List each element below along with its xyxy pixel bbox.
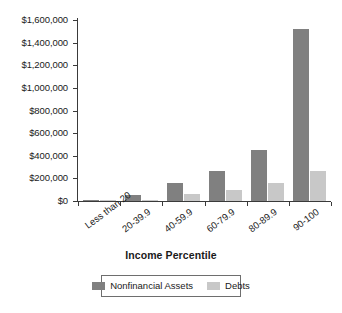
y-axis-tick-labels: $1,600,000$1,400,000$1,200,000$1,000,000… <box>0 14 72 202</box>
bar <box>268 183 284 201</box>
y-axis-tick-label: $800,000 <box>29 106 68 116</box>
bar <box>142 200 158 201</box>
legend-item: Debts <box>207 281 250 291</box>
x-axis-tick-mark <box>205 202 206 206</box>
bar-group <box>78 14 120 201</box>
x-axis-tick-mark <box>120 202 121 206</box>
bar <box>167 183 183 201</box>
y-axis-tick-label: $1,000,000 <box>21 83 68 93</box>
x-axis-title: Income Percentile <box>0 249 342 261</box>
bar-chart: $1,600,000$1,400,000$1,200,000$1,000,000… <box>0 0 342 313</box>
y-axis-tick-mark <box>73 133 77 134</box>
bar-group <box>205 14 247 201</box>
plot-area: $1,600,000$1,400,000$1,200,000$1,000,000… <box>0 0 342 215</box>
y-axis-tick-mark <box>73 65 77 66</box>
legend-label: Nonfinancial Assets <box>110 281 193 291</box>
bar-group <box>247 14 289 201</box>
y-axis-tick-mark <box>73 201 77 202</box>
y-axis-tick-mark <box>73 20 77 21</box>
y-axis-tick-label: $200,000 <box>29 174 68 184</box>
bar-group <box>289 14 331 201</box>
y-axis-tick-mark <box>73 156 77 157</box>
bar <box>251 150 267 201</box>
bar <box>226 190 242 201</box>
x-axis-tick-mark <box>331 202 332 206</box>
bar <box>209 171 225 201</box>
y-axis-tick-label: $0 <box>58 196 68 206</box>
y-axis-tick-mark <box>73 88 77 89</box>
legend-item: Nonfinancial Assets <box>92 281 193 291</box>
y-axis-tick-label: $600,000 <box>29 128 68 138</box>
y-axis-tick-mark <box>73 178 77 179</box>
y-axis-tick-label: $1,200,000 <box>21 61 68 71</box>
x-axis-tick-labels: Less than 2020-39.940-59.960-79.980-89.9… <box>78 203 331 249</box>
x-axis-tick-mark <box>162 202 163 206</box>
legend-swatch <box>207 282 220 290</box>
x-axis-tick-label: Less than 20 <box>83 207 110 230</box>
bar-group <box>162 14 204 201</box>
bar-group <box>120 14 162 201</box>
x-axis-tick-mark <box>289 202 290 206</box>
y-axis-tick-label: $400,000 <box>29 151 68 161</box>
bar <box>310 171 326 201</box>
x-axis-tick-mark <box>78 202 79 206</box>
x-axis-tick-mark <box>247 202 248 206</box>
chart-legend: Nonfinancial AssetsDebts <box>101 275 241 297</box>
bar <box>293 29 309 201</box>
legend-swatch <box>92 282 105 290</box>
bar <box>184 194 200 201</box>
y-axis-tick-mark <box>73 111 77 112</box>
bars-layer <box>78 14 331 201</box>
y-axis-tick-mark <box>73 43 77 44</box>
y-axis-tick-label: $1,400,000 <box>21 38 68 48</box>
y-axis-tick-label: $1,600,000 <box>21 15 68 25</box>
bar <box>83 200 99 201</box>
legend-label: Debts <box>225 281 250 291</box>
